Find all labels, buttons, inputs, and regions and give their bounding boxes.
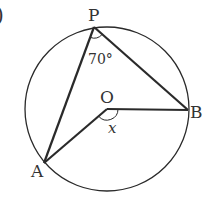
geometry-diagram: ) P B O A 70° x [0, 0, 216, 202]
label-b: B [190, 102, 203, 122]
label-a: A [30, 161, 44, 181]
label-o: O [100, 87, 114, 107]
corner-mark: ) [0, 3, 4, 27]
label-p: P [88, 5, 99, 25]
segment-ob [107, 109, 188, 110]
angle-label-p: 70° [88, 51, 113, 67]
angle-label-x: x [108, 119, 117, 137]
